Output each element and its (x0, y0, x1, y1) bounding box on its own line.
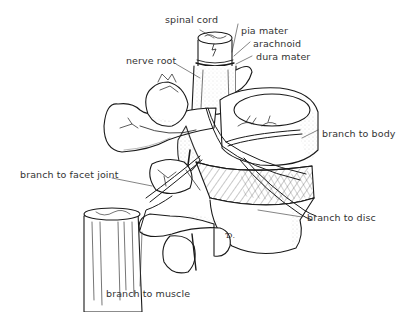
label-dura-mater: dura mater (256, 51, 310, 62)
label-spinal-cord: spinal cord (165, 14, 218, 25)
leader-arachnoid (234, 42, 250, 56)
leader-pia-mater (232, 24, 238, 52)
label-arachnoid: arachnoid (253, 38, 301, 49)
label-branch-to-body: branch to body (322, 128, 396, 139)
label-nerve-root: nerve root (126, 55, 176, 66)
vertebral-body-upper (220, 88, 318, 166)
label-branch-to-muscle: branch to muscle (106, 288, 190, 299)
label-pia-mater: pia mater (241, 25, 288, 36)
leader-dura-mater (236, 56, 252, 64)
label-branch-to-disc: branch to disc (307, 212, 376, 223)
inferior-articular-process (139, 214, 230, 273)
artist-signature: Ɗ. (225, 231, 235, 240)
label-branch-to-facet-joint: branch to facet joint (20, 169, 119, 180)
superior-articular-process (146, 74, 188, 126)
